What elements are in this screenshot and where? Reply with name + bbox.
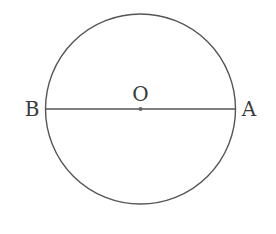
label-b: B bbox=[25, 97, 40, 121]
label-a: A bbox=[241, 97, 257, 121]
diagram-canvas: O B A bbox=[0, 0, 276, 234]
label-o: O bbox=[132, 82, 148, 106]
center-point-o bbox=[139, 107, 143, 111]
